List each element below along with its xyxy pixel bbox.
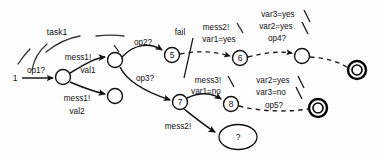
edge-label-op3: op3? — [136, 74, 155, 83]
slash-var2-yes-lower — [298, 76, 304, 88]
node-final-lower[interactable] — [309, 99, 327, 117]
region-arc-upper-right — [96, 35, 124, 36]
edge-mess1-val2 — [70, 82, 105, 94]
node-start-entry-shape[interactable] — [56, 70, 71, 85]
edge-label-op2: op2? — [134, 38, 153, 47]
node-start-entry[interactable] — [56, 70, 71, 85]
region-arc-start-tick — [18, 49, 30, 64]
edge-label-fail: fail — [175, 28, 186, 37]
node-6-label: 6 — [238, 53, 243, 63]
edge-label-op1: op1? — [27, 66, 46, 75]
node-upper-plain[interactable] — [295, 49, 310, 64]
node-upper-plain-shape[interactable] — [295, 49, 310, 64]
node-8-label: 8 — [229, 99, 234, 109]
edge-label-var3-no: var3=no — [256, 88, 286, 97]
edge-6-to-plain-path — [248, 52, 292, 57]
edge-op3-path — [120, 67, 170, 100]
slash-mess2-upper — [237, 23, 243, 33]
edge-label-op5: op5? — [265, 101, 284, 110]
edge-label-var2-yes-lower: var2=yes — [256, 76, 289, 85]
node-fork-shape[interactable] — [108, 53, 123, 68]
edge-mess1-val2-path — [70, 82, 105, 94]
edge-label-mess1-a: mess1! — [65, 53, 91, 62]
node-6[interactable]: 6 — [233, 51, 248, 66]
fail-cut-line — [184, 38, 193, 78]
node-final-upper-inner — [352, 65, 362, 75]
node-5[interactable]: 5 — [165, 48, 180, 63]
tick-fork-incoming — [114, 45, 119, 52]
slash-mess3 — [228, 76, 234, 87]
node-8[interactable]: 8 — [224, 97, 239, 112]
node-unknown[interactable]: ? — [219, 125, 257, 150]
edge-6-to-plain — [248, 52, 292, 57]
edge-label-var3-yes: var3=yes — [261, 10, 294, 19]
region-arc-upper-left — [46, 36, 80, 52]
diagram-canvas: 5 6 7 8 ? 1 tas — [0, 0, 384, 159]
node-final-upper[interactable] — [348, 61, 366, 79]
edge-plain-to-final-upper-path — [310, 57, 348, 68]
start-state-label: 1 — [13, 73, 18, 83]
edge-label-mess3: mess3! — [195, 76, 221, 85]
slash-var3-no — [296, 87, 302, 99]
node-5-label: 5 — [170, 50, 175, 60]
node-final-lower-inner — [313, 103, 323, 113]
slash-var3-yes — [304, 10, 310, 22]
edge-label-var2-yes-upper: var2=yes — [259, 22, 292, 31]
task1-label: task1 — [47, 27, 68, 37]
edge-label-mess2-upper: mess2! — [203, 23, 229, 32]
edge-5-to-6-path — [180, 52, 230, 56]
edge-label-var1-no: var1=no — [191, 87, 221, 96]
edge-label-mess2-lower: mess2! — [165, 122, 191, 131]
state-diagram: 5 6 7 8 ? 1 tas — [0, 0, 384, 159]
edge-label-op4: op4? — [268, 34, 287, 43]
node-unknown-label: ? — [236, 132, 241, 142]
slash-var2-yes-upper — [302, 22, 308, 34]
node-val2-shape[interactable] — [108, 89, 123, 104]
edge-label-mess1-b: mess1! — [64, 94, 90, 103]
node-7-label: 7 — [178, 97, 183, 107]
edge-label-var1-yes: var1=yes — [202, 35, 235, 44]
edge-plain-to-final-upper — [310, 57, 348, 68]
node-val2[interactable] — [108, 89, 123, 104]
node-7[interactable]: 7 — [173, 95, 188, 110]
edge-label-val2: val2 — [69, 107, 84, 116]
edge-op3 — [120, 67, 170, 100]
edge-label-val1: val1 — [80, 66, 95, 75]
node-fork[interactable] — [108, 53, 123, 68]
